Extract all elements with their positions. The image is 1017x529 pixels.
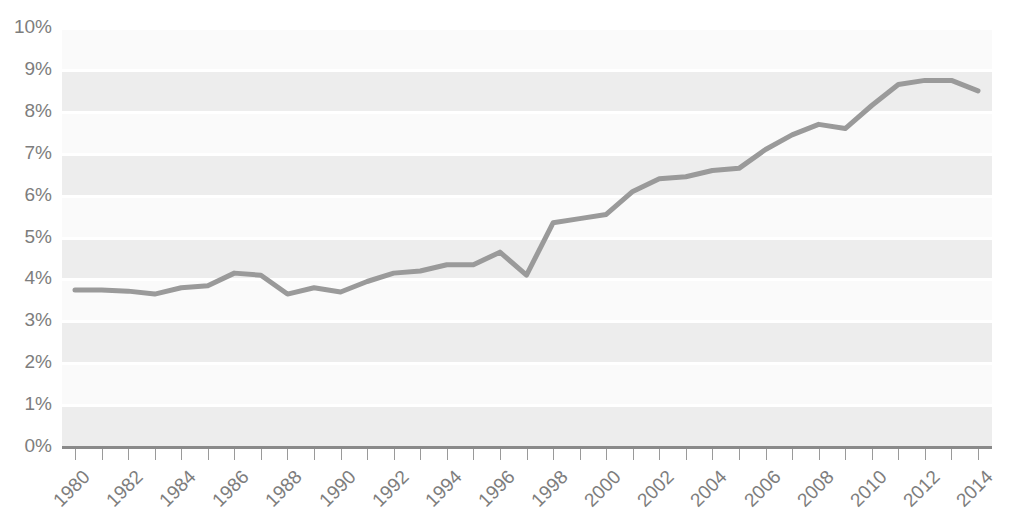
- x-tick-label: 1986: [202, 466, 254, 518]
- x-tick-label: 2006: [733, 466, 785, 518]
- line-chart: 10%9%8%7%6%5%4%3%2%1%0% 1980198219841986…: [0, 0, 1017, 529]
- x-tick-label: 2002: [627, 466, 679, 518]
- x-tick-label: 2008: [786, 466, 838, 518]
- x-tick-label: 1992: [361, 466, 413, 518]
- x-tick-label: 2004: [680, 466, 732, 518]
- x-tick-label: 2012: [892, 466, 944, 518]
- x-tick-label: 2014: [945, 466, 997, 518]
- x-tick-label: 1996: [467, 466, 519, 518]
- x-axis-tick-labels: 1980198219841986198819901992199419961998…: [0, 0, 1017, 529]
- x-tick-label: 1982: [95, 466, 147, 518]
- x-tick-label: 1990: [308, 466, 360, 518]
- x-tick-label: 2000: [573, 466, 625, 518]
- x-tick-label: 1998: [520, 466, 572, 518]
- x-tick-label: 1984: [148, 466, 200, 518]
- x-tick-label: 1988: [255, 466, 307, 518]
- x-tick-label: 1980: [42, 466, 94, 518]
- x-tick-label: 2010: [839, 466, 891, 518]
- x-tick-label: 1994: [414, 466, 466, 518]
